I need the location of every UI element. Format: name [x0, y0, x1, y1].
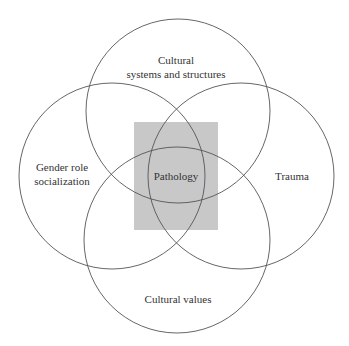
venn-diagram: Cultural systems and structures Gender r…: [0, 0, 349, 346]
label-cultural-values: Cultural values: [145, 293, 212, 305]
label-trauma: Trauma: [275, 170, 309, 182]
label-gender-2: socialization: [34, 175, 90, 187]
label-cultural-2: systems and structures: [127, 68, 226, 80]
label-pathology: Pathology: [154, 170, 199, 182]
label-cultural-1: Cultural: [158, 54, 194, 66]
label-gender-1: Gender role: [36, 161, 88, 173]
